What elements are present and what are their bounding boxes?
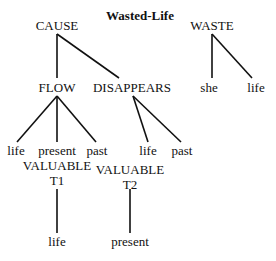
node-t2: T2 bbox=[123, 177, 137, 192]
node-cause: CAUSE bbox=[36, 18, 79, 33]
node-flow-past: past bbox=[87, 143, 108, 158]
node-disappears-past: past bbox=[172, 143, 193, 158]
node-flow: FLOW bbox=[39, 80, 77, 95]
node-disappears-life: life bbox=[139, 143, 157, 158]
node-t1: T1 bbox=[50, 173, 64, 188]
node-t1-life: life bbox=[48, 234, 66, 249]
tree-diagram: Wasted-Life CAUSE WASTE FLOW DISAPPEARS … bbox=[0, 0, 276, 261]
diagram-title: Wasted-Life bbox=[106, 8, 174, 23]
node-flow-present: present bbox=[38, 143, 76, 158]
edge-cause-disappears bbox=[57, 34, 119, 78]
node-disappears: DISAPPEARS bbox=[93, 80, 171, 95]
edges bbox=[17, 34, 252, 233]
edge-flow-life bbox=[17, 96, 57, 142]
node-waste-life: life bbox=[247, 80, 265, 95]
edge-waste-life bbox=[212, 34, 252, 78]
diagram-canvas: Wasted-Life CAUSE WASTE FLOW DISAPPEARS … bbox=[0, 0, 276, 261]
node-she: she bbox=[200, 80, 218, 95]
node-flow-life: life bbox=[7, 143, 25, 158]
node-waste: WASTE bbox=[190, 18, 233, 33]
node-valuable-1: VALUABLE bbox=[23, 158, 91, 173]
node-t2-present: present bbox=[111, 234, 149, 249]
node-valuable-2: VALUABLE bbox=[96, 162, 164, 177]
edge-flow-past bbox=[57, 96, 96, 142]
